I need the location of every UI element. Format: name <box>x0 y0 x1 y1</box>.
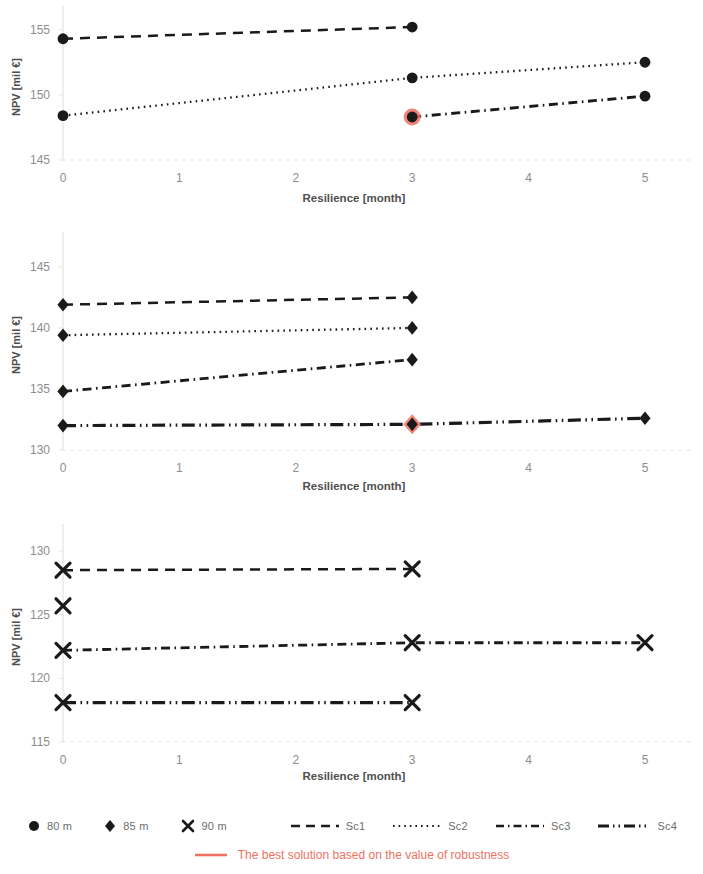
svg-text:4: 4 <box>525 171 532 185</box>
svg-text:150: 150 <box>30 88 50 102</box>
red-line-icon <box>194 850 228 860</box>
dotted-line-icon <box>391 820 443 832</box>
svg-text:115: 115 <box>31 735 50 749</box>
legend-item-80m: 80 m <box>26 819 72 833</box>
legend-item-sc4: Sc4 <box>596 820 677 832</box>
legend-item-90m: 90 m <box>179 818 227 834</box>
svg-text:125: 125 <box>30 608 50 622</box>
svg-text:3: 3 <box>409 171 416 185</box>
dashed-line-icon <box>289 820 341 832</box>
svg-text:5: 5 <box>642 461 649 475</box>
svg-text:3: 3 <box>409 753 416 767</box>
svg-text:Resilience [month]: Resilience [month] <box>303 770 406 782</box>
legend-label-sc2: Sc2 <box>448 820 468 832</box>
legend-item-sc3: Sc3 <box>494 820 571 832</box>
legend-label-sc1: Sc1 <box>346 820 366 832</box>
svg-text:140: 140 <box>30 321 50 335</box>
legend-item-best-solution: The best solution based on the value of … <box>194 848 510 862</box>
svg-text:NPV [mil €]: NPV [mil €] <box>10 316 22 374</box>
legend-item-sc1: Sc1 <box>289 820 366 832</box>
legend-label-sc4: Sc4 <box>657 820 677 832</box>
x-marker-icon <box>179 818 197 834</box>
chart-legend: 80 m 85 m 90 m Sc1 Sc2 <box>0 818 703 862</box>
legend-row-note: The best solution based on the value of … <box>0 848 703 862</box>
svg-text:1: 1 <box>176 753 183 767</box>
svg-text:155: 155 <box>30 23 50 37</box>
legend-label-80m: 80 m <box>47 820 72 832</box>
svg-text:1: 1 <box>176 461 183 475</box>
circle-marker-icon <box>26 819 42 833</box>
legend-label-best-solution: The best solution based on the value of … <box>238 848 510 862</box>
svg-text:5: 5 <box>642 171 649 185</box>
chart-panel-90m: 115120125130012345Resilience [month]NPV … <box>0 512 703 802</box>
svg-text:Resilience [month]: Resilience [month] <box>303 192 406 204</box>
dash-dot-dot-line-icon <box>596 820 652 832</box>
chart-svg-85m: 130135140145012345Resilience [month]NPV … <box>0 222 703 512</box>
svg-text:0: 0 <box>60 171 67 185</box>
dash-dot-line-icon <box>494 820 546 832</box>
svg-text:NPV [mil €]: NPV [mil €] <box>10 608 22 666</box>
svg-text:145: 145 <box>30 260 50 274</box>
svg-text:130: 130 <box>30 443 50 457</box>
svg-text:NPV [mil €]: NPV [mil €] <box>10 58 22 116</box>
svg-text:2: 2 <box>292 461 299 475</box>
diamond-marker-icon <box>102 819 118 833</box>
svg-text:0: 0 <box>60 753 67 767</box>
svg-text:4: 4 <box>525 461 532 475</box>
chart-panel-85m: 130135140145012345Resilience [month]NPV … <box>0 222 703 512</box>
svg-text:3: 3 <box>409 461 416 475</box>
legend-label-90m: 90 m <box>202 820 227 832</box>
chart-panel-80m: 145150155012345Resilience [month]NPV [mi… <box>0 0 703 222</box>
svg-text:5: 5 <box>642 753 649 767</box>
legend-label-sc3: Sc3 <box>551 820 571 832</box>
svg-text:120: 120 <box>30 671 50 685</box>
svg-text:2: 2 <box>292 171 299 185</box>
chart-svg-90m: 115120125130012345Resilience [month]NPV … <box>0 512 703 802</box>
svg-text:0: 0 <box>60 461 67 475</box>
legend-label-85m: 85 m <box>123 820 148 832</box>
svg-text:130: 130 <box>30 544 50 558</box>
svg-text:145: 145 <box>30 153 50 167</box>
svg-text:4: 4 <box>525 753 532 767</box>
chart-svg-80m: 145150155012345Resilience [month]NPV [mi… <box>0 0 703 222</box>
legend-item-sc2: Sc2 <box>391 820 468 832</box>
legend-item-85m: 85 m <box>102 819 148 833</box>
svg-text:135: 135 <box>30 382 50 396</box>
svg-text:1: 1 <box>176 171 183 185</box>
legend-row-symbols: 80 m 85 m 90 m Sc1 Sc2 <box>0 818 703 834</box>
svg-text:Resilience [month]: Resilience [month] <box>303 480 406 492</box>
svg-text:2: 2 <box>292 753 299 767</box>
